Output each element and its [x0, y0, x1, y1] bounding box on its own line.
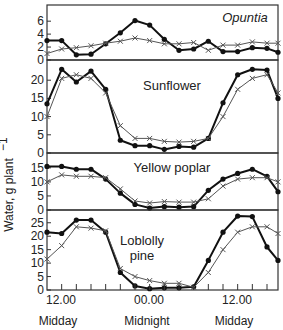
data-point-dot	[74, 79, 79, 84]
data-point-cross	[221, 247, 226, 252]
data-point-dot	[220, 176, 225, 181]
data-point-dot	[176, 205, 181, 210]
data-point-dot	[88, 167, 93, 172]
y-tick-label: 0	[37, 53, 44, 67]
data-point-dot	[59, 38, 64, 43]
data-point-dot	[162, 37, 167, 42]
data-point-dot	[191, 145, 196, 150]
data-point-dot	[44, 101, 49, 106]
panel-title: Sunflower	[143, 78, 201, 93]
x-tick-label-midnight: 00.00	[134, 293, 164, 307]
panel-title: pine	[130, 248, 155, 263]
x-axis: 12.00 00.00 12.00 Midday Midnight Midday	[39, 284, 267, 328]
y-tick-label: 10	[31, 175, 45, 189]
y-axis-title: Water, g plant −1	[0, 137, 16, 232]
data-point-dot	[74, 167, 79, 172]
panel-title: Opuntia	[222, 10, 268, 25]
data-point-dot	[176, 48, 181, 53]
y-tick-label: 2	[37, 40, 44, 54]
y-axis-title-text: Water, g plant	[2, 158, 16, 232]
data-point-dot	[59, 67, 64, 72]
data-point-dot	[176, 144, 181, 149]
data-point-dot	[132, 143, 137, 148]
data-point-dot	[162, 147, 167, 152]
data-point-dot	[74, 52, 79, 57]
data-point-dot	[264, 46, 269, 51]
data-point-dot	[162, 204, 167, 209]
y-tick-label: 4	[37, 27, 44, 41]
y-tick-label: 20	[31, 229, 45, 243]
data-point-cross	[59, 243, 64, 248]
panel-yellow-poplar: 051015Yellow poplar	[31, 153, 281, 217]
panel-title: Yellow poplar	[134, 160, 212, 175]
data-point-dot	[132, 18, 137, 23]
data-point-cross	[206, 270, 211, 275]
data-point-dot	[235, 72, 240, 77]
data-point-dot	[118, 30, 123, 35]
data-point-dot	[235, 49, 240, 54]
y-tick-label: 0	[37, 146, 44, 160]
y-tick-label: 6	[37, 14, 44, 28]
panel-opuntia: 0246Opuntia	[37, 5, 280, 67]
data-point-dot	[59, 164, 64, 169]
data-point-dot	[264, 244, 269, 249]
data-point-dot	[206, 188, 211, 193]
data-point-dot	[275, 189, 280, 194]
panels: 0246Opuntia05101520Sunflower051015Yellow…	[31, 5, 281, 297]
data-point-cross	[206, 48, 211, 53]
x-sublabel-midnight: Midnight	[124, 314, 170, 328]
data-point-dot	[220, 49, 225, 54]
data-point-dot	[220, 100, 225, 105]
data-point-dot	[147, 22, 152, 27]
data-point-dot	[206, 39, 211, 44]
data-point-dot	[59, 231, 64, 236]
data-point-dot	[275, 50, 280, 55]
data-point-dot	[250, 67, 255, 72]
y-axis-title-superscript: −1	[0, 137, 10, 151]
panel-loblolly-pine: 0510152025Loblollypine	[31, 210, 281, 297]
data-point-cross	[235, 230, 240, 235]
data-point-dot	[250, 214, 255, 219]
y-tick-label: 15	[31, 161, 45, 175]
panel-title: Loblolly	[120, 233, 165, 248]
y-tick-label: 10	[31, 256, 45, 270]
y-tick-label: 15	[31, 243, 45, 257]
data-point-dot	[88, 217, 93, 222]
y-tick-label: 10	[31, 110, 45, 124]
series-cross-line	[47, 175, 278, 203]
y-tick-label: 5	[37, 128, 44, 142]
data-point-dot	[191, 204, 196, 209]
data-point-dot	[275, 258, 280, 263]
data-point-dot	[275, 96, 280, 101]
data-point-dot	[44, 230, 49, 235]
y-tick-label: 5	[37, 270, 44, 284]
data-point-dot	[235, 171, 240, 176]
panel-sunflower: 05101520Sunflower	[31, 60, 281, 160]
data-point-dot	[220, 230, 225, 235]
data-point-dot	[74, 217, 79, 222]
data-point-dot	[250, 45, 255, 50]
x-sublabel-midday-1: Midday	[39, 314, 78, 328]
data-point-dot	[250, 167, 255, 172]
water-content-chart: 0246Opuntia05101520Sunflower051015Yellow…	[0, 0, 283, 330]
panel-frame	[47, 210, 278, 290]
x-tick-label-midday-1: 12.00	[46, 293, 76, 307]
data-point-dot	[191, 46, 196, 51]
data-point-cross	[221, 184, 226, 189]
y-tick-label: 25	[31, 216, 45, 230]
chart-canvas: 0246Opuntia05101520Sunflower051015Yellow…	[0, 0, 283, 330]
data-point-cross	[133, 274, 138, 279]
data-point-cross	[235, 87, 240, 92]
x-tick-label-midday-2: 12.00	[222, 293, 252, 307]
data-point-dot	[118, 138, 123, 143]
data-point-dot	[264, 67, 269, 72]
x-sublabel-midday-2: Midday	[215, 314, 254, 328]
y-tick-label: 20	[31, 73, 45, 87]
y-tick-label: 15	[31, 91, 45, 105]
data-point-cross	[118, 123, 123, 128]
data-point-dot	[44, 38, 49, 43]
data-point-dot	[235, 213, 240, 218]
data-point-dot	[88, 69, 93, 74]
y-tick-label: 0	[37, 283, 44, 297]
data-point-dot	[147, 143, 152, 148]
